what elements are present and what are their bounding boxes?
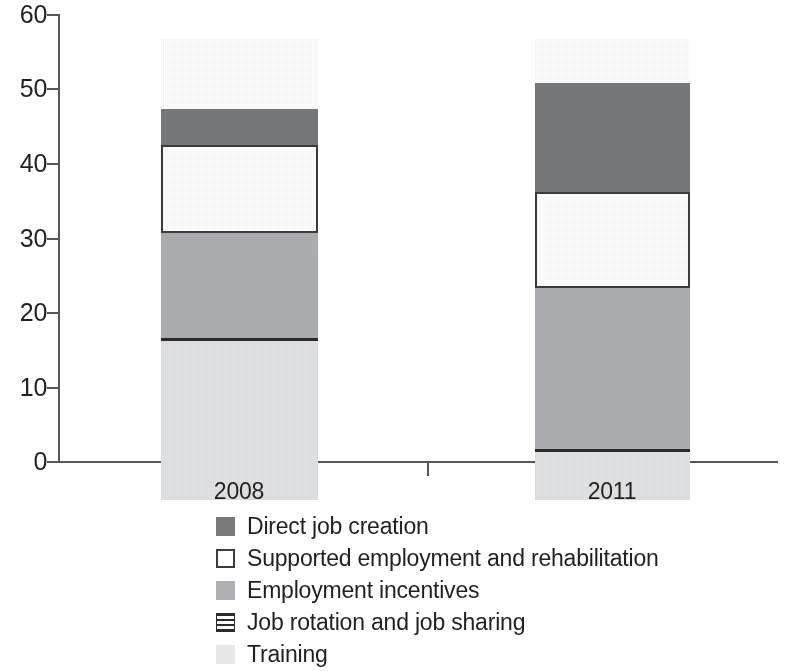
legend-item-employment-incentives[interactable]: Employment incentives <box>216 576 776 604</box>
segment-2011-supported-employment-and-rehabilitation[interactable] <box>535 192 690 287</box>
y-tick-20 <box>47 312 58 314</box>
segment-2011-direct-job-creation[interactable] <box>535 83 690 193</box>
legend-label-training: Training <box>247 641 328 668</box>
y-tick-60 <box>47 14 58 16</box>
legend-swatch-training-icon <box>216 645 235 664</box>
plot-area: 60 50 40 30 20 10 0 <box>0 0 795 500</box>
x-axis-label-2011: 2011 <box>532 478 692 504</box>
y-tick-40 <box>47 163 58 165</box>
legend-item-supported-employment-and-rehabilitation[interactable]: Supported employment and rehabilitation <box>216 544 776 572</box>
segment-2011-employment-incentives[interactable] <box>535 288 690 449</box>
y-tick-0 <box>47 461 58 463</box>
legend-swatch-direct-job-creation-icon <box>216 517 235 536</box>
y-tick-label-50: 50 <box>3 76 47 101</box>
legend-item-direct-job-creation[interactable]: Direct job creation <box>216 512 776 540</box>
x-axis-label-2008: 2008 <box>159 478 319 504</box>
legend: Direct job creation Supported employment… <box>216 512 776 671</box>
legend-swatch-employment-incentives-icon <box>216 581 235 600</box>
y-tick-label-10: 10 <box>3 375 47 400</box>
y-tick-10 <box>47 387 58 389</box>
legend-label-supported-employment-and-rehabilitation: Supported employment and rehabilitation <box>247 545 659 572</box>
bar-2011[interactable] <box>535 39 690 500</box>
y-tick-label-30: 30 <box>3 226 47 251</box>
legend-swatch-job-rotation-and-job-sharing-icon <box>216 613 235 632</box>
segment-2008-employment-incentives[interactable] <box>161 233 318 338</box>
segment-2008-training[interactable] <box>161 341 318 500</box>
legend-swatch-supported-employment-and-rehabilitation-icon <box>216 549 235 568</box>
legend-item-training[interactable]: Training <box>216 640 776 668</box>
segment-2008-job-rotation-and-job-sharing[interactable] <box>161 338 318 341</box>
bar-2008[interactable] <box>161 39 318 500</box>
y-axis-line <box>58 14 60 463</box>
y-tick-label-60: 60 <box>3 2 47 27</box>
x-axis-center-tick <box>427 463 429 476</box>
y-tick-30 <box>47 238 58 240</box>
y-tick-label-40: 40 <box>3 151 47 176</box>
y-tick-label-20: 20 <box>3 300 47 325</box>
segment-2008-supported-employment-and-rehabilitation[interactable] <box>161 145 318 234</box>
y-tick-50 <box>47 88 58 90</box>
legend-label-direct-job-creation: Direct job creation <box>247 513 429 540</box>
y-tick-label-0: 0 <box>3 449 47 474</box>
legend-item-job-rotation-and-job-sharing[interactable]: Job rotation and job sharing <box>216 608 776 636</box>
legend-label-job-rotation-and-job-sharing: Job rotation and job sharing <box>247 609 525 636</box>
segment-2011-job-rotation-and-job-sharing[interactable] <box>535 449 690 452</box>
segment-2008-direct-job-creation[interactable] <box>161 109 318 145</box>
legend-label-employment-incentives: Employment incentives <box>247 577 479 604</box>
